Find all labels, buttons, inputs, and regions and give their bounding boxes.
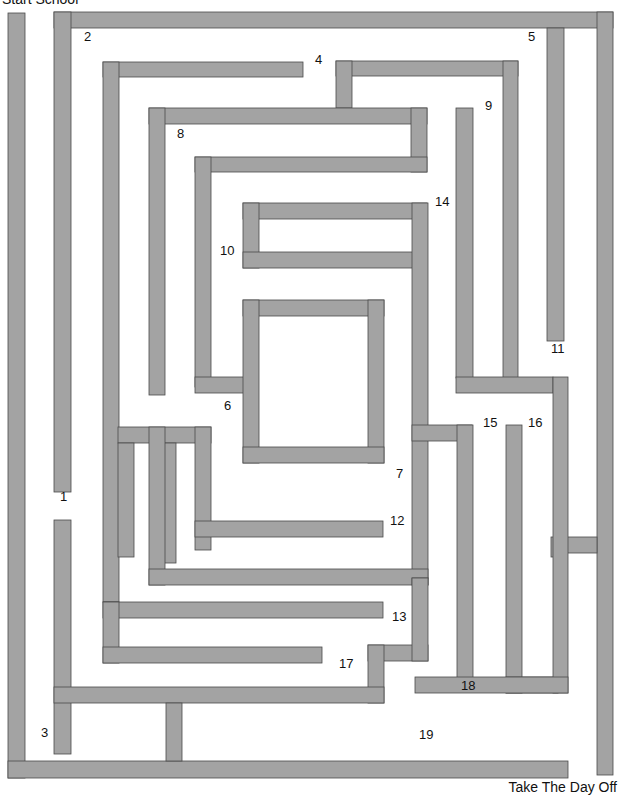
- maze-wall: [553, 377, 568, 693]
- maze-wall: [243, 300, 384, 316]
- maze-wall: [368, 300, 384, 463]
- maze-wall: [54, 12, 613, 28]
- checkpoint-label: 1: [60, 490, 67, 503]
- maze-walls: [0, 0, 629, 799]
- maze-wall: [243, 300, 259, 463]
- checkpoint-label: 4: [315, 53, 322, 66]
- maze-wall: [103, 647, 322, 663]
- maze-wall: [415, 677, 568, 693]
- maze-wall: [149, 108, 427, 124]
- checkpoint-label: 8: [177, 127, 184, 140]
- maze-wall: [195, 377, 247, 393]
- maze-wall: [103, 62, 119, 602]
- maze-wall: [456, 108, 473, 378]
- maze-wall: [8, 761, 568, 778]
- checkpoint-label: 7: [396, 467, 403, 480]
- maze-wall: [503, 61, 518, 381]
- maze-wall: [8, 13, 25, 778]
- maze-wall: [118, 443, 134, 557]
- finish-label: Take The Day Off: [509, 779, 617, 795]
- maze-wall: [336, 61, 518, 76]
- checkpoint-label: 6: [224, 399, 231, 412]
- maze-wall: [506, 425, 522, 693]
- maze-wall: [336, 61, 352, 108]
- checkpoint-label: 18: [461, 679, 475, 692]
- maze-wall: [564, 537, 597, 553]
- checkpoint-label: 2: [84, 30, 91, 43]
- checkpoint-label: 15: [483, 416, 497, 429]
- maze-wall: [547, 28, 564, 341]
- maze-wall: [195, 157, 427, 172]
- checkpoint-label: 19: [419, 728, 433, 741]
- maze-wall: [195, 521, 383, 537]
- maze-wall: [149, 108, 165, 395]
- checkpoint-label: 14: [435, 195, 449, 208]
- checkpoint-label: 12: [390, 514, 404, 527]
- maze-wall: [54, 12, 71, 492]
- checkpoint-label: 5: [528, 30, 535, 43]
- maze-wall: [54, 520, 71, 754]
- checkpoint-label: 3: [41, 726, 48, 739]
- maze-wall: [243, 447, 384, 463]
- maze-wall: [103, 62, 303, 77]
- checkpoint-label: 10: [220, 244, 234, 257]
- maze-wall: [243, 252, 427, 268]
- maze-wall: [412, 203, 428, 578]
- maze-wall: [149, 569, 428, 585]
- maze-wall: [149, 427, 165, 585]
- checkpoint-label: 16: [528, 416, 542, 429]
- maze-wall: [243, 203, 427, 219]
- maze-wall: [195, 157, 211, 387]
- checkpoint-label: 9: [485, 99, 492, 112]
- maze-wall: [597, 12, 613, 775]
- maze-wall: [456, 377, 553, 393]
- checkpoint-label: 11: [551, 342, 565, 355]
- checkpoint-label: 17: [339, 657, 353, 670]
- maze-wall: [412, 578, 428, 661]
- checkpoint-label: 13: [392, 610, 406, 623]
- maze-wall: [457, 425, 473, 679]
- maze-wall: [54, 687, 384, 703]
- maze-wall: [103, 602, 383, 618]
- maze-wall: [166, 703, 182, 761]
- start-label: Start School: [2, 0, 78, 7]
